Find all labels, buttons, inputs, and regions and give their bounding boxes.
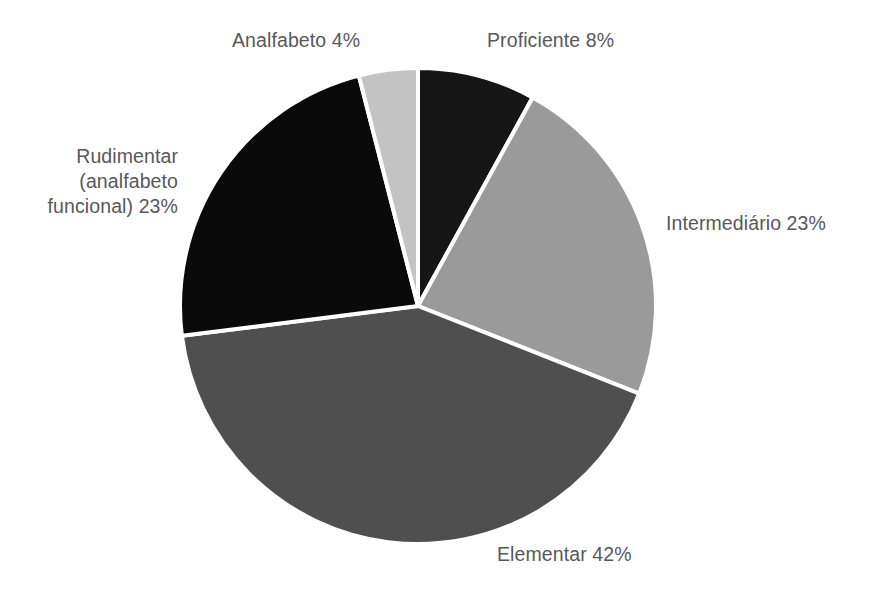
slice-label-rudimentar-line-1: Rudimentar xyxy=(0,144,178,169)
slice-label-proficiente: Proficiente 8% xyxy=(487,28,614,53)
slice-label-rudimentar: Rudimentar (analfabeto funcional) 23% xyxy=(0,144,178,219)
slice-label-analfabeto: Analfabeto 4% xyxy=(232,28,360,53)
slice-label-rudimentar-line-2: (analfabeto xyxy=(0,169,178,194)
slice-label-elementar: Elementar 42% xyxy=(497,542,632,567)
slice-label-rudimentar-line-3: funcional) 23% xyxy=(0,194,178,219)
pie-chart xyxy=(0,0,873,595)
slice-label-intermediario: Intermediário 23% xyxy=(666,211,826,236)
pie-slice-group xyxy=(180,68,656,544)
chart-canvas: Analfabeto 4% Proficiente 8% Intermediár… xyxy=(0,0,873,595)
